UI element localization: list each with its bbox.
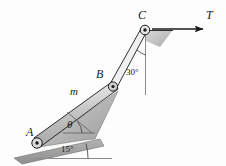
label-angle-30: 30° [126, 68, 139, 77]
support-wedge-at-c [146, 31, 172, 47]
label-point-c: C [138, 9, 146, 21]
pin-joint-a-center [35, 141, 38, 144]
pin-joint-b-center [111, 85, 114, 88]
label-tension-force: T [206, 9, 213, 21]
label-point-a: A [26, 126, 33, 138]
pin-joint-c-center [143, 28, 146, 31]
bar-bc [110, 27, 147, 89]
angle-30-arc [137, 50, 146, 55]
label-point-b: B [96, 68, 103, 80]
figure-canvas [0, 0, 226, 166]
label-mass: m [70, 86, 78, 97]
label-theta-angle: θ [67, 119, 72, 130]
mechanics-figure: A B C T m θ 30° 15° [0, 0, 226, 166]
label-angle-15: 15° [61, 145, 74, 154]
